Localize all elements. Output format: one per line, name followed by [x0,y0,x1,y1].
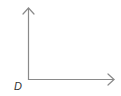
vertex-label: D [14,81,22,92]
